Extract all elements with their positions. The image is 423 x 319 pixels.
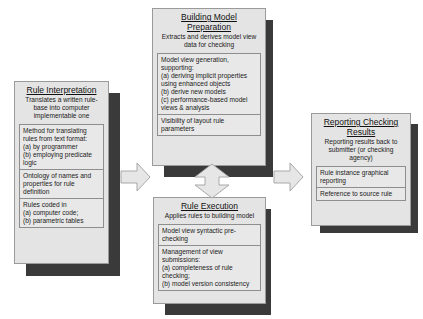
double-arrow-vertical-icon — [193, 163, 231, 199]
rule-interpretation-box: Rule Interpretation Translates a written… — [14, 81, 109, 264]
building-model-preparation-sections: Model view generation, supporting: (a) d… — [157, 53, 261, 136]
reporting-checking-results-box: Reporting Checking Results Reporting res… — [311, 113, 411, 226]
rule-execution-title: Rule Execution — [158, 201, 261, 211]
rule-interpretation-title: Rule Interpretation — [19, 85, 104, 95]
rule-execution-subtitle: Applies rules to building model — [158, 212, 261, 220]
building-model-preparation-subtitle: Extracts and derives model view data for… — [157, 33, 261, 49]
building-model-preparation-section: Visibility of layout rule parameters — [158, 114, 260, 135]
rule-execution-section: Model view syntactic pre-checking — [159, 225, 260, 245]
arrow-right-icon — [273, 162, 305, 192]
building-model-preparation-box: Building Model Preparation Extracts and … — [152, 8, 266, 166]
building-model-preparation-title: Building Model Preparation — [157, 12, 261, 32]
reporting-checking-results-title: Reporting Checking Results — [316, 117, 406, 137]
rule-execution-section: Management of view submissions: (a) comp… — [159, 245, 260, 290]
rule-interpretation-subtitle: Translates a written rule-base into comp… — [19, 96, 104, 120]
rule-execution-sections: Model view syntactic pre-checking Manage… — [158, 224, 261, 291]
reporting-checking-results-subtitle: Reporting results back to submitter (or … — [316, 138, 406, 162]
arrow-right-icon — [120, 162, 152, 192]
rule-execution-box: Rule Execution Applies rules to building… — [153, 197, 266, 304]
reporting-checking-results-sections: Rule instance graphical reporting Refere… — [316, 166, 406, 201]
building-model-preparation-section: Model view generation, supporting: (a) d… — [158, 54, 260, 114]
rule-interpretation-section: Method for translating rules from text f… — [20, 125, 103, 169]
reporting-checking-results-section: Rule instance graphical reporting — [317, 167, 405, 187]
rule-interpretation-section: Ontology of names and properties for rul… — [20, 169, 103, 198]
reporting-checking-results-section: Reference to source rule — [317, 187, 405, 200]
rule-interpretation-sections: Method for translating rules from text f… — [19, 124, 104, 228]
rule-interpretation-section: Rules coded in (a) computer code; (b) pa… — [20, 198, 103, 227]
